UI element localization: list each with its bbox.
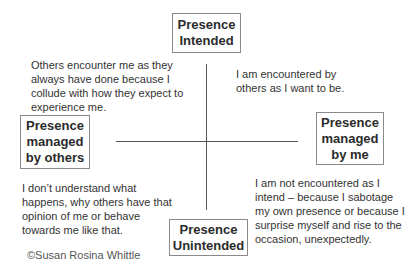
vertical-axis xyxy=(206,64,207,210)
quadrant-top-left-text: Others encounter me as they always have … xyxy=(31,58,183,114)
text-line: I don’t understand what xyxy=(22,181,172,195)
box-presence-unintended: Presence Unintended xyxy=(169,219,248,256)
text-line: surprise myself and rise to the xyxy=(255,218,405,232)
quadrant-bottom-right-text: I am not encountered as I intend – becau… xyxy=(255,176,405,246)
box-presence-managed-by-me: Presence managed by me xyxy=(316,112,384,165)
text-line: occasion, unexpectedly. xyxy=(255,232,405,246)
box-presence-intended: Presence Intended xyxy=(172,13,241,53)
box-managed-by-others-line1: Presence xyxy=(26,118,84,134)
text-line: I am encountered by xyxy=(236,67,344,81)
box-presence-unintended-line1: Presence xyxy=(180,222,238,238)
text-line: my own presence or because I xyxy=(255,204,405,218)
horizontal-axis xyxy=(116,141,298,142)
text-line: others as I want to be. xyxy=(236,81,344,95)
box-presence-intended-line1: Presence xyxy=(178,17,236,33)
quadrant-top-right-text: I am encountered by others as I want to … xyxy=(236,67,344,95)
text-line: intend – because I sabotage xyxy=(255,190,405,204)
box-managed-by-me-line3: by me xyxy=(331,147,369,163)
box-managed-by-others-line3: by others xyxy=(26,150,85,166)
box-presence-managed-by-others: Presence managed by others xyxy=(20,115,90,169)
quadrant-bottom-left-text: I don’t understand what happens, why oth… xyxy=(22,181,172,237)
box-managed-by-others-line2: managed xyxy=(26,134,83,150)
box-managed-by-me-line1: Presence xyxy=(321,115,379,131)
text-line: Others encounter me as they xyxy=(31,58,183,72)
box-managed-by-me-line2: managed xyxy=(321,131,378,147)
text-line: towards me like that. xyxy=(22,223,172,237)
box-presence-unintended-line2: Unintended xyxy=(173,238,245,254)
text-line: opinion of me or behave xyxy=(22,209,172,223)
copyright-text: ©Susan Rosina Whittle xyxy=(27,249,140,261)
text-line: always have done because I xyxy=(31,72,183,86)
text-line: collude with how they expect to xyxy=(31,86,183,100)
text-line: happens, why others have that xyxy=(22,195,172,209)
box-presence-intended-line2: Intended xyxy=(179,33,233,49)
text-line: experience me. xyxy=(31,100,183,114)
text-line: I am not encountered as I xyxy=(255,176,405,190)
